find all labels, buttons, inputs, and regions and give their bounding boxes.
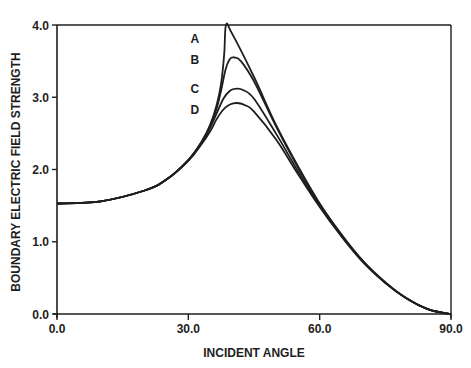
curve-label-a: A: [191, 32, 200, 46]
plot-frame: [53, 25, 451, 318]
y-axis-ticks: 0.01.02.03.04.0: [32, 19, 57, 322]
y-tick-label: 1.0: [32, 235, 49, 249]
y-tick-label: 2.0: [32, 163, 49, 177]
x-axis-ticks: 0.030.060.090.0: [49, 314, 463, 336]
curve-c: [57, 88, 451, 314]
curve-b: [57, 57, 451, 314]
chart: 0.01.02.03.04.0 0.030.060.090.0 ABCD INC…: [0, 0, 471, 368]
curve-d: [57, 103, 451, 314]
curve-labels: ABCD: [191, 32, 200, 118]
y-tick-label: 3.0: [32, 91, 49, 105]
curve-label-c: C: [191, 82, 200, 96]
x-tick-label: 90.0: [439, 322, 463, 336]
y-axis-title: BOUNDARY ELECTRIC FIELD STRENGTH: [9, 52, 23, 291]
curve-label-d: D: [191, 103, 200, 117]
y-tick-label: 0.0: [32, 308, 49, 322]
x-tick-label: 60.0: [308, 322, 332, 336]
curve-a: [57, 24, 451, 314]
x-tick-label: 30.0: [177, 322, 201, 336]
x-tick-label: 0.0: [49, 322, 66, 336]
x-axis-title: INCIDENT ANGLE: [203, 346, 305, 360]
y-tick-label: 4.0: [32, 19, 49, 33]
curve-label-b: B: [191, 53, 200, 67]
data-series: [57, 24, 451, 314]
